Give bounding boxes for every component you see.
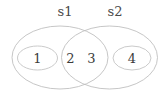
venn-diagram-canvas: s1 s2 1 2 3 4 bbox=[0, 0, 167, 94]
set-ellipse-s2[interactable] bbox=[62, 26, 158, 89]
element-label-2: 2 bbox=[66, 51, 74, 66]
set-label-s2: s2 bbox=[108, 4, 123, 19]
venn-diagram-figure: s1 s2 1 2 3 4 bbox=[0, 0, 167, 94]
element-label-1: 1 bbox=[33, 51, 41, 66]
element-label-4: 4 bbox=[128, 51, 136, 66]
set-label-s1: s1 bbox=[58, 4, 73, 19]
element-label-3: 3 bbox=[87, 51, 95, 66]
